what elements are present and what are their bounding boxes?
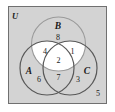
region-value-b-and-c: 1	[71, 47, 75, 56]
region-value-b-only: 8	[56, 33, 60, 42]
set-label-a: A	[25, 66, 32, 76]
region-value-a-and-c: 7	[57, 73, 61, 82]
region-value-a-and-b: 4	[43, 47, 47, 56]
region-value-a-only: 6	[37, 75, 41, 84]
set-label-b: B	[54, 21, 61, 31]
venn-diagram-figure: B A C U 8 4 1 2 6 7 3 5	[0, 0, 115, 112]
region-value-outside: 5	[96, 89, 100, 98]
region-value-c-only: 3	[76, 75, 80, 84]
region-value-a-and-b-and-c: 2	[57, 56, 61, 65]
universe-label: U	[12, 11, 19, 21]
venn-diagram-canvas: B A C U 8 4 1 2 6 7 3 5	[0, 0, 115, 112]
set-label-c: C	[84, 66, 91, 76]
